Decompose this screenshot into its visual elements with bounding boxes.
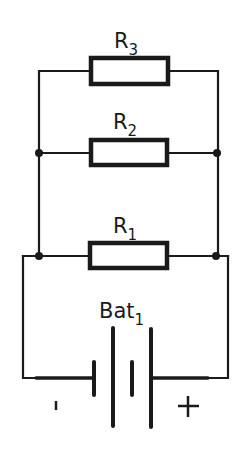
junction-dot [35, 252, 43, 260]
junction-dot [213, 149, 221, 157]
resistor-r3 [91, 58, 168, 84]
label-r1: R1 [113, 214, 137, 244]
label-r3: R3 [114, 29, 138, 59]
resistor-r2 [91, 140, 167, 165]
polarity-signs [56, 396, 199, 417]
junction-dot [35, 149, 43, 157]
resistor-r1 [90, 243, 167, 268]
battery-bat1 [94, 328, 151, 427]
label-bat1: Bat1 [99, 299, 144, 329]
label-r2: R2 [113, 110, 137, 140]
circuit-diagram: R3 R2 R1 Bat1 [0, 0, 247, 455]
junction-dot [212, 252, 220, 260]
